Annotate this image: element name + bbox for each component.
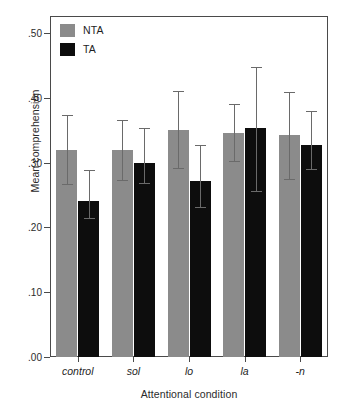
legend: NTA TA	[60, 22, 104, 60]
x-axis-tick	[300, 357, 301, 362]
legend-label-ta: TA	[83, 43, 96, 55]
error-bar-line	[200, 145, 201, 207]
error-bar-cap-upper	[84, 170, 95, 171]
y-axis-tick-label: .30	[0, 157, 42, 168]
y-axis-tick	[44, 292, 50, 293]
y-axis-tick	[44, 98, 50, 99]
legend-item-nta: NTA	[60, 22, 104, 38]
error-bar-line	[89, 170, 90, 218]
x-axis-tick	[78, 357, 79, 362]
error-bar-cap-lower	[62, 184, 73, 185]
error-bar-cap-lower	[139, 183, 150, 184]
error-bar-cap-upper	[251, 67, 262, 68]
error-bar-cap-upper	[284, 92, 295, 93]
y-axis-tick	[44, 227, 50, 228]
error-bar-cap-lower	[195, 207, 206, 208]
error-bar-cap-lower	[284, 179, 295, 180]
y-axis-tick	[44, 33, 50, 34]
error-bar-line	[256, 67, 257, 191]
error-bar-line	[234, 104, 235, 162]
x-axis-tick	[245, 357, 246, 362]
x-axis-tick	[189, 357, 190, 362]
y-axis-tick-label: .00	[0, 352, 42, 363]
bar-ta-n	[301, 145, 322, 357]
error-bar-cap-upper	[195, 145, 206, 146]
error-bar-line	[67, 115, 68, 184]
x-axis-tick-label: -n	[265, 365, 335, 377]
y-axis-tick	[44, 357, 50, 358]
bar-ta-sol	[134, 163, 155, 357]
error-bar-line	[122, 120, 123, 180]
bar-ta-control	[78, 201, 99, 357]
error-bar-line	[178, 91, 179, 168]
error-bar-cap-lower	[251, 191, 262, 192]
error-bar-cap-lower	[229, 161, 240, 162]
bar-nta-sol	[112, 150, 133, 357]
y-axis-tick-label: .50	[0, 28, 42, 39]
error-bar-line	[289, 92, 290, 179]
x-axis-tick	[133, 357, 134, 362]
y-axis-tick-label: .40	[0, 92, 42, 103]
error-bar-cap-lower	[173, 168, 184, 169]
legend-item-ta: TA	[60, 41, 104, 57]
error-bar-cap-upper	[117, 120, 128, 121]
y-axis-tick-label: .10	[0, 287, 42, 298]
figure-bar-chart: Mean comprehension .00.10.20.30.40.50 co…	[0, 0, 344, 409]
bar-nta-la	[223, 133, 244, 357]
error-bar-cap-upper	[306, 111, 317, 112]
error-bar-cap-upper	[229, 104, 240, 105]
error-bar-cap-upper	[173, 91, 184, 92]
legend-swatch-ta-icon	[60, 43, 75, 56]
legend-label-nta: NTA	[83, 24, 104, 36]
error-bar-cap-lower	[84, 218, 95, 219]
error-bar-line	[144, 128, 145, 183]
error-bar-cap-lower	[306, 169, 317, 170]
legend-swatch-nta-icon	[60, 24, 75, 37]
error-bar-cap-upper	[62, 115, 73, 116]
error-bar-cap-lower	[117, 180, 128, 181]
x-axis-title: Attentional condition	[50, 388, 328, 400]
error-bar-cap-upper	[139, 128, 150, 129]
y-axis-tick-label: .20	[0, 222, 42, 233]
error-bar-line	[311, 111, 312, 169]
y-axis-tick	[44, 163, 50, 164]
